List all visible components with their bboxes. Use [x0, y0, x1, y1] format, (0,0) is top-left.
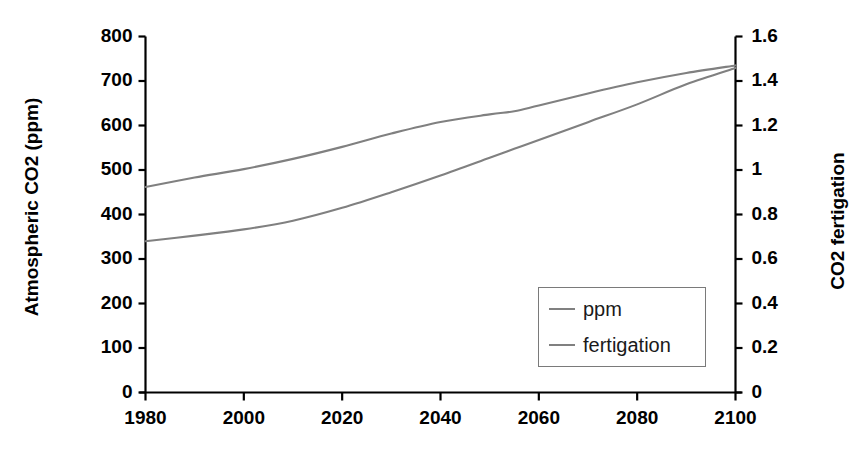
- data-line-fertigation: [146, 68, 736, 241]
- y-axis-left-tick-label: 400: [63, 203, 133, 225]
- y-axis-left-tick-label: 100: [63, 336, 133, 358]
- y-axis-right-tick-label: 0.4: [752, 292, 822, 314]
- legend-label-ppm: ppm: [583, 298, 622, 321]
- y-axis-right-tick-label: 0.6: [752, 247, 822, 269]
- y-axis-left-tick-label: 300: [63, 247, 133, 269]
- y-axis-right-tick-label: 0.2: [752, 336, 822, 358]
- y-axis-right-tick-label: 1: [752, 158, 822, 180]
- y-axis-left-tick-label: 700: [63, 69, 133, 91]
- y-axis-right-tick-label: 1.6: [752, 25, 822, 47]
- y-axis-left-tick-label: 0: [63, 381, 133, 403]
- x-axis-tick-label: 2040: [396, 407, 486, 429]
- x-axis-tick-label: 2060: [494, 407, 584, 429]
- x-axis-tick-label: 2080: [592, 407, 682, 429]
- y-axis-left-tick-label: 800: [63, 25, 133, 47]
- y-axis-left-tick-label: 600: [63, 114, 133, 136]
- legend-label-fertigation: fertigation: [583, 334, 671, 357]
- legend-item-fertigation: fertigation: [549, 330, 671, 360]
- legend-line-swatch-ppm: [549, 308, 575, 310]
- y-axis-right-tick-label: 1.2: [752, 114, 822, 136]
- data-line-ppm: [146, 65, 736, 186]
- legend-item-ppm: ppm: [549, 294, 622, 324]
- x-axis-tick-label: 2100: [691, 407, 781, 429]
- x-axis-tick-label: 1980: [101, 407, 191, 429]
- chart-figure: Atmospheric CO2 (ppm) CO2 fertigation pp…: [0, 0, 861, 456]
- x-axis-tick-label: 2000: [199, 407, 289, 429]
- legend-line-swatch-fertigation: [549, 344, 575, 346]
- y-axis-right-tick-label: 1.4: [752, 69, 822, 91]
- x-axis-tick-label: 2020: [297, 407, 387, 429]
- y-axis-left-tick-label: 200: [63, 292, 133, 314]
- y-axis-left-tick-label: 500: [63, 158, 133, 180]
- y-axis-right-tick-label: 0.8: [752, 203, 822, 225]
- y-axis-right-tick-label: 0: [752, 381, 822, 403]
- chart-legend: ppm fertigation: [538, 287, 706, 367]
